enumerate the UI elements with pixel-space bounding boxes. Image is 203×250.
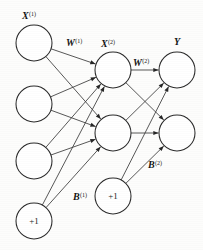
neuron-circle: [159, 115, 195, 151]
neuron-circle: [16, 86, 52, 122]
label-superscript: (2): [108, 39, 115, 46]
node-hb: +1: [95, 178, 131, 214]
edge-line: [51, 49, 95, 64]
arrowhead-icon: [90, 123, 96, 127]
edge-i3-to-h2: [51, 139, 96, 155]
neural-network-figure: +1+1 X(1)W(1)X(2)W(2)YB(1)B(2): [0, 0, 203, 250]
label-input_layer: X(1): [21, 10, 36, 21]
neuron-circle: [95, 115, 131, 151]
node-i3: [16, 143, 52, 179]
label-base: X: [21, 10, 29, 21]
bias-node-label: +1: [108, 191, 118, 201]
node-o2: [159, 115, 195, 151]
neuron-circle: [159, 52, 195, 88]
neuron-circle: [16, 25, 52, 61]
label-superscript: (2): [142, 58, 149, 65]
bias-node-label: +1: [29, 216, 39, 226]
edge-line: [46, 84, 101, 147]
label-base: B: [147, 159, 155, 170]
edge-line: [51, 77, 96, 97]
edge-i2-to-h2: [51, 110, 96, 127]
node-h1: [95, 52, 131, 88]
arrowhead-icon: [90, 60, 96, 64]
edge-line: [51, 110, 96, 126]
label-superscript: (1): [80, 192, 87, 199]
label-base: X: [100, 38, 108, 49]
arrowhead-icon: [153, 131, 158, 135]
arrowhead-icon: [164, 86, 168, 92]
label-bias_2: B(2): [147, 159, 162, 170]
edge-i3-to-h1: [46, 84, 101, 147]
label-base: B: [72, 191, 80, 202]
arrowhead-icon: [100, 86, 104, 92]
label-bias_1: B(1): [72, 191, 87, 202]
node-o1: [159, 52, 195, 88]
arrowhead-icon: [153, 68, 158, 72]
node-h2: [95, 115, 131, 151]
node-i2: [16, 86, 52, 122]
nodes-group: +1+1: [16, 25, 195, 239]
label-weights_2: W(2): [133, 57, 149, 68]
node-i1: [16, 25, 52, 61]
neuron-circle: [16, 143, 52, 179]
label-superscript: (1): [29, 11, 36, 18]
label-superscript: (2): [155, 160, 162, 167]
label-output_layer: Y: [174, 36, 181, 47]
node-ib: +1: [16, 203, 52, 239]
arrowhead-icon: [90, 77, 96, 81]
network-canvas: +1+1 X(1)W(1)X(2)W(2)YB(1)B(2): [0, 0, 203, 250]
edge-i1-to-h1: [51, 49, 95, 65]
neuron-circle: [95, 52, 131, 88]
edge-line: [51, 139, 96, 155]
label-weights_1: W(1): [66, 37, 82, 48]
edge-h1-to-o1: [131, 68, 159, 72]
arrowhead-icon: [90, 139, 96, 143]
label-superscript: (1): [75, 38, 82, 45]
label-base: Y: [174, 36, 181, 47]
label-hidden_layer: X(2): [100, 38, 115, 49]
edge-i2-to-h1: [51, 77, 96, 97]
